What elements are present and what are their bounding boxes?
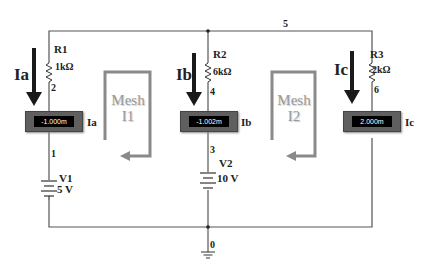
ammeter-ia-label: Ia [87, 116, 97, 128]
mesh-i2-line1: Mesh [273, 92, 315, 108]
battery-v1-icon [41, 181, 57, 200]
ground-icon [201, 252, 215, 258]
ammeter-ia: -1.000m [25, 111, 83, 132]
ammeter-ib: -1.002m [180, 111, 238, 132]
node-label-3: 3 [210, 144, 215, 155]
ammeter-ia-reading: -1.000m [34, 116, 74, 127]
junction-bottom [206, 225, 210, 229]
ammeter-ib-label: Ib [241, 116, 251, 128]
mesh-i2-label: Mesh I2 [273, 92, 315, 124]
ammeter-ic: 2.000m [343, 111, 401, 132]
ammeter-ib-reading: -1.002m [189, 116, 229, 127]
ammeter-ic-label: Ic [405, 116, 414, 128]
current-label-ib: Ib [176, 65, 192, 84]
circuit-schematic: Ia R1 1kΩ 2 Ia 1 V1 5 V Ib R2 6kΩ 4 Ib 3… [0, 0, 427, 275]
resistor-r2-value: 6kΩ [213, 66, 232, 77]
node-label-4: 4 [210, 86, 215, 97]
current-label-ic: Ic [334, 60, 349, 79]
resistor-r3-name: R3 [370, 48, 384, 60]
resistor-r1-name: R1 [54, 43, 67, 55]
node-label-0: 0 [210, 239, 215, 250]
current-label-ia: Ia [14, 65, 30, 84]
resistor-r2-name: R2 [213, 48, 227, 60]
ammeter-ic-reading: 2.000m [352, 116, 392, 127]
mesh-i2-line2: I2 [273, 108, 315, 124]
resistor-r1-value: 1kΩ [55, 61, 74, 72]
resistor-r2-icon [205, 60, 211, 82]
mesh-i1-line2: I1 [107, 108, 149, 124]
mesh-i1-line1: Mesh [107, 92, 149, 108]
resistor-r1-icon [46, 60, 52, 82]
source-v1-value: 5 V [57, 183, 73, 195]
mesh-i1-label: Mesh I1 [107, 92, 149, 124]
resistor-r3-value: 2kΩ [372, 64, 391, 75]
node-label-1: 1 [51, 148, 56, 159]
wires [49, 31, 372, 252]
node-label-2: 2 [51, 82, 56, 93]
node-label-5: 5 [283, 18, 288, 29]
source-v2-name: V2 [219, 157, 233, 169]
source-v2-value: 10 V [217, 172, 239, 184]
node-label-6: 6 [374, 84, 379, 95]
top-wire [49, 31, 372, 60]
battery-v2-icon [200, 173, 216, 188]
junction-top [206, 29, 210, 33]
